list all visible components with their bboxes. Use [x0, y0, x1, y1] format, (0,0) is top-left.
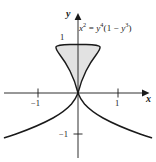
- plot-canvas: [0, 0, 156, 162]
- x-axis-label: x: [146, 94, 151, 104]
- y-axis-arrow-head: [75, 13, 82, 20]
- equation-annotation: x2 = y4(1 − y3): [79, 24, 132, 33]
- curve-plot-figure: y x 1 −1 1 −1 x2 = y4(1 − y3): [0, 0, 156, 162]
- y-tick-label-positive-one: 1: [60, 33, 64, 42]
- x-tick-label-positive-one: 1: [115, 99, 119, 108]
- y-tick-label-negative-one: −1: [59, 130, 68, 139]
- equation-close-paren: ): [128, 23, 131, 33]
- x-tick-label-negative-one: −1: [31, 99, 40, 108]
- y-axis-label: y: [66, 9, 70, 19]
